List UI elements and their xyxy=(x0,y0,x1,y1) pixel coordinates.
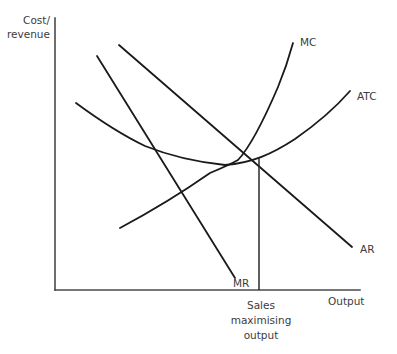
mc-curve-label: MC xyxy=(300,36,316,48)
caption-line-3: output xyxy=(244,329,279,341)
caption-line-1: Sales xyxy=(247,299,275,311)
atc-curve-label: ATC xyxy=(357,90,377,102)
caption-line-2: maximising xyxy=(231,314,292,326)
y-axis-label-line1: Cost/ xyxy=(23,14,50,26)
y-axis-label-line2: revenue xyxy=(7,28,50,40)
economics-diagram: Cost/ revenue Output MC ATC AR MR Sales … xyxy=(0,0,397,354)
x-axis-label: Output xyxy=(328,295,364,307)
ar-curve-label: AR xyxy=(360,243,374,255)
mr-curve-label: MR xyxy=(233,277,249,289)
